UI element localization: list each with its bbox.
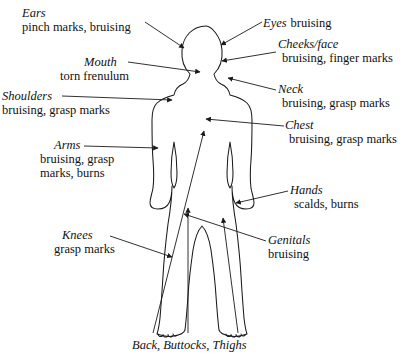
leader-neck — [228, 78, 276, 90]
label-neck: Neck bruising, grasp marks — [278, 82, 390, 110]
child-abuse-injury-diagram: Ears pinch marks, bruising Mouth torn fr… — [0, 0, 412, 360]
label-neck-head: Neck — [278, 82, 390, 96]
leader-ears — [145, 22, 184, 48]
caption-back-buttocks-thighs: Back, Buttocks, Thighs — [132, 338, 247, 353]
leader-back — [153, 131, 204, 333]
label-arms-desc-line2: marks, burns — [40, 166, 114, 180]
label-shoulders-head: Shoulders — [2, 89, 110, 103]
left-arm-sliver — [171, 142, 177, 188]
label-chest-desc: bruising, grasp marks — [285, 132, 397, 146]
label-eyes-head: Eyes — [263, 16, 287, 30]
leader-chest — [206, 119, 284, 126]
label-eyes: Eyes bruising — [263, 13, 332, 31]
label-hands-desc: scalds, burns — [290, 197, 359, 211]
label-mouth: Mouth torn frenulum — [60, 55, 129, 83]
label-knees-desc: grasp marks — [54, 242, 115, 256]
label-arms: Arms bruising, grasp marks, burns — [40, 138, 114, 180]
leader-knees — [110, 236, 172, 257]
label-genitals-desc: bruising — [268, 247, 310, 261]
leader-mouth — [128, 62, 200, 72]
label-shoulders: Shoulders bruising, grasp marks — [2, 89, 110, 117]
label-cheeks: Cheeks/face bruising, finger marks — [278, 37, 393, 65]
label-ears: Ears pinch marks, bruising — [22, 6, 131, 34]
label-neck-desc: bruising, grasp marks — [278, 96, 390, 110]
label-chest-head: Chest — [285, 118, 397, 132]
label-arms-desc-line1: bruising, grasp — [40, 152, 114, 166]
right-arm-sliver — [227, 142, 233, 188]
label-cheeks-head: Cheeks/face — [278, 37, 393, 51]
leader-hands — [236, 191, 288, 203]
label-mouth-head: Mouth — [60, 55, 129, 69]
leader-eyes — [221, 22, 262, 45]
label-cheeks-desc: bruising, finger marks — [278, 51, 393, 65]
leader-thighs — [223, 218, 238, 333]
label-hands: Hands scalds, burns — [290, 183, 359, 211]
label-ears-head: Ears — [22, 6, 131, 20]
label-eyes-desc: bruising — [291, 16, 332, 30]
label-genitals: Genitals bruising — [268, 233, 310, 261]
label-shoulders-desc: bruising, grasp marks — [2, 103, 110, 117]
label-genitals-head: Genitals — [268, 233, 310, 247]
leader-cheeks — [222, 52, 276, 61]
label-arms-head: Arms — [40, 138, 114, 152]
label-knees-head: Knees — [54, 228, 115, 242]
label-chest: Chest bruising, grasp marks — [285, 118, 397, 146]
body-outline — [150, 26, 254, 337]
label-hands-head: Hands — [290, 183, 359, 197]
label-mouth-desc: torn frenulum — [60, 69, 129, 83]
label-knees: Knees grasp marks — [54, 228, 115, 256]
label-ears-desc: pinch marks, bruising — [22, 20, 131, 34]
